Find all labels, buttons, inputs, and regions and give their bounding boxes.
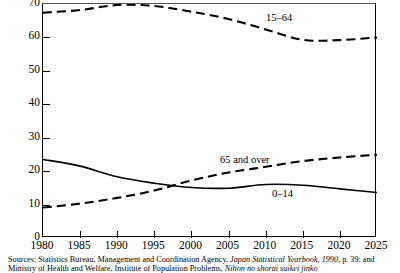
source-note: Sources: Statistics Bureau, Management a… — [8, 255, 400, 273]
series-label-65-and-over: 65 and over — [219, 154, 271, 165]
x-axis-label-2020: 2020 — [327, 239, 350, 251]
x-axis-label-1980: 1980 — [31, 239, 54, 251]
x-axis-label-2000: 2000 — [179, 239, 202, 251]
source-line1-prefix: Sources: Statistics Bureau, Management a… — [8, 255, 230, 264]
y-axis-label-70: 70 — [0, 0, 40, 8]
y-axis-label-20: 20 — [0, 164, 40, 175]
y-axis-label-60: 60 — [0, 30, 40, 41]
y-axis-label-40: 40 — [0, 97, 40, 108]
y-axis-label-30: 30 — [0, 131, 40, 142]
x-axis-label-1985: 1985 — [68, 239, 91, 251]
x-axis-label-1990: 1990 — [105, 239, 128, 251]
source-line2-italic: Nihon no shorai suikei jinko — [225, 264, 318, 273]
x-axis-label-1995: 1995 — [142, 239, 165, 251]
plot-area: 15–64 65 and over 0–14 — [42, 3, 376, 237]
source-line2: Ministry of Health and Welfare, Institut… — [8, 264, 400, 273]
y-axis-label-50: 50 — [0, 64, 40, 75]
line-65-and-over — [43, 155, 377, 208]
source-line1-suffix: , p. 39; and — [338, 255, 375, 264]
source-line2-prefix: Ministry of Health and Welfare, Institut… — [8, 264, 225, 273]
source-line1-italic: Japan Statistical Yearbook, 1990 — [230, 255, 338, 264]
x-axis-label-2005: 2005 — [216, 239, 239, 251]
series-lines — [43, 4, 377, 238]
series-label-0-14: 0–14 — [271, 188, 294, 199]
x-axis-label-2015: 2015 — [290, 239, 313, 251]
x-axis-label-2025: 2025 — [365, 239, 388, 251]
series-label-15-64: 15–64 — [265, 12, 293, 23]
y-axis-label-10: 10 — [0, 198, 40, 209]
x-axis-label-2010: 2010 — [253, 239, 276, 251]
line-15-64 — [43, 5, 377, 41]
